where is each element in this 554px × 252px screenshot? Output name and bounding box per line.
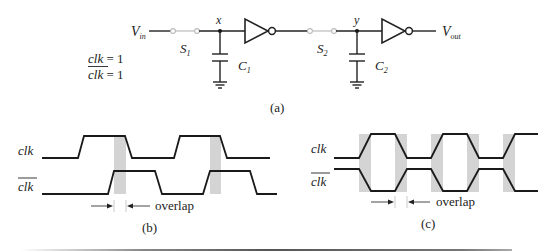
overlap-band <box>359 134 371 192</box>
condition-clk-bar: clk = 1 <box>88 67 124 82</box>
inverter-2-icon <box>382 19 412 43</box>
ground-icon <box>213 82 227 88</box>
overlap-label: overlap <box>436 194 475 209</box>
capacitor-c1 <box>212 31 228 82</box>
switch-s2 <box>308 29 337 34</box>
switch-s1-terminal-right <box>195 29 200 34</box>
node-y-label: y <box>353 13 360 27</box>
caption-a: (a) <box>270 100 284 115</box>
timing-diagram-c: clk clk overlap (c) <box>311 134 538 231</box>
capacitor-c1-label: C1 <box>238 58 251 75</box>
caption-b: (b) <box>142 220 157 235</box>
timing-diagram-b: clk clk overlap (b) <box>18 136 277 235</box>
switch-s2-terminal-left <box>308 29 313 34</box>
overlap-dimension <box>371 196 430 208</box>
bottom-divider <box>20 249 512 251</box>
caption-c: (c) <box>421 216 435 231</box>
overlap-band <box>210 136 221 194</box>
capacitor-c2 <box>349 31 365 82</box>
inverter-1-icon <box>245 19 275 43</box>
capacitor-c2-label: C2 <box>375 58 388 75</box>
clk-waveform <box>42 136 270 158</box>
circuit-schematic: Vin S1 x C1 <box>88 13 462 115</box>
switch-s2-label: S2 <box>317 41 328 58</box>
overlap-band <box>114 136 126 194</box>
switch-s1-terminal-left <box>171 29 176 34</box>
ground-icon <box>350 82 364 88</box>
overlap-band <box>503 134 515 192</box>
overlap-band <box>467 134 479 192</box>
vout-label: Vout <box>442 24 462 41</box>
condition-clk: clk = 1 <box>88 51 124 66</box>
clk-bar-label: clk <box>311 174 326 189</box>
overlap-label: overlap <box>155 198 194 213</box>
clk-bar-waveform <box>42 171 277 194</box>
two-phase-clock-figure: Vin S1 x C1 <box>0 0 554 252</box>
clk-label: clk <box>18 143 33 158</box>
switch-s1 <box>171 29 200 34</box>
switch-s2-terminal-right <box>332 29 337 34</box>
clk-label: clk <box>311 141 326 156</box>
vin-label: Vin <box>131 24 146 41</box>
node-x-label: x <box>215 13 222 27</box>
switch-s1-label: S1 <box>180 41 191 58</box>
overlap-band <box>431 134 443 192</box>
overlap-band <box>395 134 407 192</box>
clk-bar-label: clk <box>18 179 33 194</box>
overlap-dimension <box>91 200 150 212</box>
clock-condition: clk = 1 clk = 1 <box>88 51 124 82</box>
